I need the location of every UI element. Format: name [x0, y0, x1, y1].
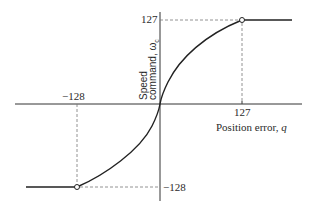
- x-axis-title-text: Position error,: [216, 121, 281, 133]
- y-axis-title: Speed command, ωc: [139, 39, 161, 100]
- x-tick-label-left: −128: [62, 91, 85, 102]
- y-tick-label-bottom: −128: [163, 182, 186, 193]
- saturation-marker-positive: [240, 18, 245, 23]
- saturation-marker-negative: [75, 185, 80, 190]
- y-tick-label-top: 127: [141, 14, 158, 25]
- x-tick-label-right: 127: [234, 107, 251, 118]
- x-axis-title-variable: q: [281, 121, 287, 133]
- x-axis-title: Position error, q: [216, 122, 287, 133]
- y-axis-title-line2: command, ωc: [148, 39, 161, 100]
- speed-command-plot: [0, 0, 314, 207]
